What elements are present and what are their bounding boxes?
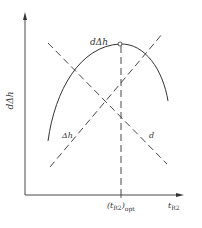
- label-line-d: d: [149, 132, 154, 140]
- x-axis: [25, 193, 184, 197]
- y-axis-arrow-icon: [23, 12, 27, 20]
- x-tick-label-optimum: (tR2)opt: [107, 202, 135, 212]
- peak-marker-icon: [118, 42, 122, 46]
- label-line-delta-h: Δh: [62, 132, 73, 140]
- x-axis-label: tR2: [168, 202, 180, 211]
- diagram-canvas: dΔh Δh d dΔh (tR2)opt tR2: [0, 0, 202, 228]
- line-delta-h: [50, 33, 163, 167]
- x-tick-sub: R2: [113, 204, 121, 211]
- y-axis: [23, 12, 27, 195]
- y-axis-label: dΔh: [6, 91, 15, 109]
- label-curve-d-delta-h: dΔh: [90, 38, 108, 47]
- x-axis-arrow-icon: [176, 193, 184, 197]
- line-d: [48, 43, 167, 164]
- x-axis-label-sub: R2: [171, 204, 179, 211]
- curve-d-delta-h: [48, 44, 168, 141]
- x-tick-sub2: opt: [125, 205, 135, 212]
